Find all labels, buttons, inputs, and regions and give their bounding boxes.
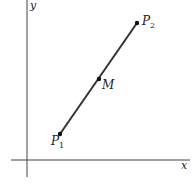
y-axis-label: y (30, 0, 36, 11)
p2-name: P (142, 14, 150, 28)
point-m (97, 77, 101, 81)
p1-subscript: 1 (59, 141, 64, 150)
diagram-canvas (0, 0, 196, 191)
label-m: M (102, 79, 114, 91)
midpoint-diagram: y x P1 M P2 (0, 0, 196, 191)
label-p1: P1 (51, 135, 64, 147)
p1-name: P (51, 134, 59, 148)
p2-subscript: 2 (150, 21, 155, 30)
label-p2: P2 (142, 15, 155, 27)
point-p2 (135, 21, 139, 25)
x-axis-label: x (181, 160, 187, 171)
